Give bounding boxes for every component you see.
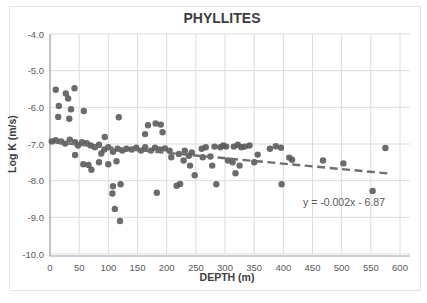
data-point bbox=[320, 157, 326, 163]
x-tick-label: 550 bbox=[363, 262, 379, 273]
y-tick-label: -5.0 bbox=[28, 65, 44, 76]
data-point bbox=[182, 147, 188, 153]
data-point bbox=[168, 154, 174, 160]
data-point bbox=[255, 151, 261, 157]
chart-figure: 050100150200250300350400450500550600 -4.… bbox=[0, 0, 427, 303]
y-axis-tick-labels: -4.0-5.0-6.0-7.0-8.0-9.0-10.0 bbox=[22, 29, 44, 260]
data-point bbox=[102, 134, 108, 140]
y-axis-title: Log K (m/s) bbox=[6, 115, 18, 173]
data-point bbox=[278, 181, 284, 187]
y-tick-label: -9.0 bbox=[28, 212, 44, 223]
data-point bbox=[142, 131, 148, 137]
data-point bbox=[209, 162, 215, 168]
data-point bbox=[98, 150, 104, 156]
data-point bbox=[117, 218, 123, 224]
y-tick-label: -8.0 bbox=[28, 175, 44, 186]
data-point bbox=[117, 181, 123, 187]
chart-title: PHYLLITES bbox=[183, 10, 260, 26]
data-point bbox=[71, 85, 77, 91]
data-point bbox=[66, 116, 72, 122]
axis-lines bbox=[49, 34, 410, 256]
data-point bbox=[203, 144, 209, 150]
data-point bbox=[152, 120, 158, 126]
data-point bbox=[159, 129, 165, 135]
data-point bbox=[56, 103, 62, 109]
data-point bbox=[187, 162, 193, 168]
data-point bbox=[246, 142, 252, 148]
data-point bbox=[278, 145, 284, 151]
data-point bbox=[382, 145, 388, 151]
y-tick-label: -4.0 bbox=[28, 29, 44, 40]
x-tick-label: 200 bbox=[159, 262, 175, 273]
data-point bbox=[88, 167, 94, 173]
data-point bbox=[177, 181, 183, 187]
data-point bbox=[142, 144, 148, 150]
trendline-equation: y = -0.002x - 6.87 bbox=[303, 196, 385, 208]
data-point bbox=[110, 183, 116, 189]
data-point bbox=[65, 95, 71, 101]
phyllites-scatter-chart: 050100150200250300350400450500550600 -4.… bbox=[0, 0, 427, 303]
x-tick-label: 600 bbox=[392, 262, 408, 273]
data-point bbox=[289, 157, 295, 163]
data-point bbox=[267, 146, 273, 152]
data-point bbox=[72, 152, 78, 158]
data-point bbox=[236, 162, 242, 168]
x-tick-label: 0 bbox=[47, 262, 52, 273]
data-point bbox=[113, 158, 119, 164]
data-point bbox=[180, 157, 186, 163]
data-point bbox=[53, 87, 59, 93]
data-point bbox=[81, 108, 87, 114]
x-tick-label: 100 bbox=[100, 262, 116, 273]
y-tick-label: -7.0 bbox=[28, 139, 44, 150]
data-point bbox=[55, 114, 61, 120]
x-tick-label: 500 bbox=[334, 262, 350, 273]
data-point bbox=[116, 114, 122, 120]
data-point bbox=[369, 188, 375, 194]
data-point bbox=[112, 206, 118, 212]
data-point bbox=[232, 170, 238, 176]
data-point bbox=[68, 106, 74, 112]
y-tick-label: -6.0 bbox=[28, 102, 44, 113]
gridlines bbox=[50, 34, 410, 254]
y-tick-label: -10.0 bbox=[22, 249, 44, 260]
x-axis-title: DEPTH (m) bbox=[200, 271, 255, 283]
data-point bbox=[154, 190, 160, 196]
x-tick-label: 150 bbox=[130, 262, 146, 273]
data-point bbox=[105, 161, 111, 167]
data-point bbox=[340, 160, 346, 166]
data-point bbox=[96, 159, 102, 165]
x-tick-label: 450 bbox=[305, 262, 321, 273]
x-tick-label: 50 bbox=[74, 262, 85, 273]
data-point bbox=[192, 172, 198, 178]
data-point bbox=[145, 122, 151, 128]
data-point bbox=[109, 190, 115, 196]
data-point bbox=[211, 143, 217, 149]
x-tick-label: 400 bbox=[275, 262, 291, 273]
data-point bbox=[213, 181, 219, 187]
data-point bbox=[223, 143, 229, 149]
